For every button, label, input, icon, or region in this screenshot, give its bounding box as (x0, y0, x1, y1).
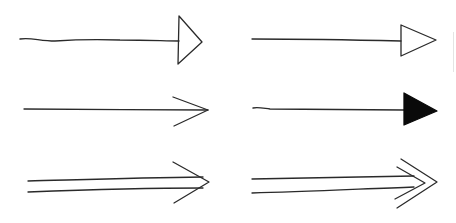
arrow-double-shaft-icon (28, 162, 209, 203)
arrow-double-shaft-double-head-shaft (252, 176, 414, 179)
arrow-filled-triangle-shaft (253, 108, 404, 110)
arrow-double-shaft-double-head-part-3 (397, 159, 437, 208)
arrow-filled-triangle-part-1 (404, 93, 437, 125)
arrow-line-head-icon (24, 97, 208, 126)
arrow-line-head-shaft (24, 109, 208, 110)
arrow-open-triangle-wavy-shaft (20, 38, 179, 41)
arrow-open-triangle-wavy-part-1 (178, 16, 202, 64)
arrow-styles-canvas (0, 0, 456, 223)
arrow-double-shaft-double-head-part-1 (252, 187, 414, 193)
arrow-open-triangle-straight-shaft (252, 39, 401, 41)
arrow-double-shaft-double-head-icon (252, 159, 437, 208)
arrow-line-head-part-1 (173, 97, 208, 126)
arrow-double-shaft-part-1 (28, 188, 203, 192)
arrow-open-triangle-wavy-icon (20, 16, 202, 64)
arrow-double-shaft-shaft (28, 177, 203, 181)
arrow-double-shaft-part-2 (173, 162, 209, 203)
arrow-open-triangle-straight-part-1 (401, 25, 436, 56)
arrow-filled-triangle-icon (253, 93, 437, 125)
edge-divider (453, 32, 454, 72)
arrow-open-triangle-straight-icon (252, 25, 436, 56)
